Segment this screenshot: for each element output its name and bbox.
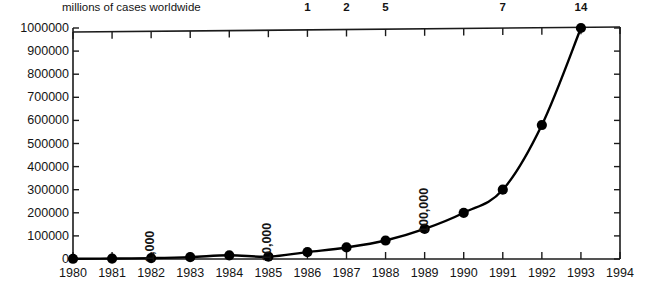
secondary-axis-tick-label: 7 <box>500 1 506 13</box>
y-axis-tick-label: 500000 <box>27 137 69 151</box>
x-axis-tick-label: 1993 <box>567 266 595 280</box>
data-point-value-label: 10,000 <box>260 222 274 260</box>
y-axis-tick-labels: 0100000200000300000400000500000600000700… <box>0 0 69 283</box>
secondary-axis-tick-label: 5 <box>382 1 388 13</box>
x-axis-tick-label: 1980 <box>59 266 87 280</box>
y-axis-tick-label: 900000 <box>27 44 69 58</box>
data-point-markers <box>68 23 586 264</box>
axes <box>73 27 620 259</box>
x-axis-tick-label: 1982 <box>137 266 165 280</box>
y-axis-tick-label: 400000 <box>27 160 69 174</box>
x-axis-tick-label: 1983 <box>176 266 204 280</box>
chart-figure: FIGURE 1. EST millions of cases worldwid… <box>0 0 668 283</box>
x-axis-tick-label: 1981 <box>98 266 126 280</box>
x-axis-tick-label: 1989 <box>411 266 439 280</box>
secondary-axis-tick-label: 2 <box>343 1 349 13</box>
plot-area <box>0 0 668 283</box>
secondary-axis-tick-label: 14 <box>575 1 588 13</box>
y-axis-tick-label: 1000000 <box>20 21 69 35</box>
x-axis-tick-label: 1992 <box>528 266 556 280</box>
data-point-value-label: 100,000 <box>417 188 431 233</box>
y-axis-tick-label: 0 <box>62 252 69 266</box>
y-axis-tick-label: 100000 <box>27 229 69 243</box>
data-series-line <box>73 28 581 259</box>
x-axis-tick-label: 1984 <box>215 266 243 280</box>
secondary-axis-label: millions of cases worldwide <box>62 1 201 13</box>
x-axis-tick-label: 1991 <box>489 266 517 280</box>
y-axis-tick-label: 300000 <box>27 183 69 197</box>
y-axis-tick-label: 800000 <box>27 67 69 81</box>
data-point-value-label: 1,000 <box>143 231 157 262</box>
secondary-axis-tick-label: 1 <box>304 1 310 13</box>
x-axis-tick-label: 1985 <box>254 266 282 280</box>
y-axis-tick-label: 700000 <box>27 90 69 104</box>
x-axis-tick-label: 1987 <box>333 266 361 280</box>
y-axis-tick-label: 200000 <box>27 206 69 220</box>
x-axis-tick-label: 1994 <box>606 266 634 280</box>
y-axis-tick-label: 600000 <box>27 113 69 127</box>
x-axis-tick-label: 1988 <box>372 266 400 280</box>
x-axis-tick-label: 1990 <box>450 266 478 280</box>
x-axis-tick-label: 1986 <box>294 266 322 280</box>
